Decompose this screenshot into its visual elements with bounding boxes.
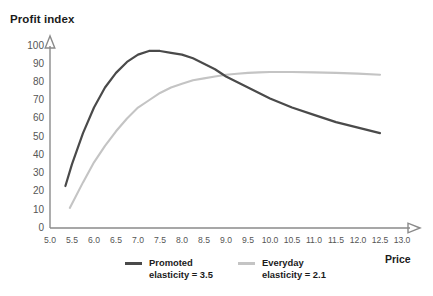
x-tick-label: 12.0	[350, 235, 367, 245]
legend-item-promoted: Promoted elasticity = 3.5	[125, 257, 213, 280]
legend-item-everyday: Everyday elasticity = 2.1	[238, 257, 326, 280]
y-tick-label: 10	[33, 204, 45, 215]
y-axis-group	[45, 36, 55, 228]
chart-plot-area: 100 90 80 70 60 50 40 30 20 10 0 5.0 5.5…	[0, 0, 433, 296]
series-lines	[65, 51, 380, 208]
x-tick-label: 6.0	[88, 235, 100, 245]
legend-label-everyday-line2: elasticity = 2.1	[262, 269, 326, 281]
legend-swatch-everyday-icon	[238, 262, 255, 265]
y-tick-label: 50	[33, 131, 45, 142]
x-tick-label: 7.5	[154, 235, 166, 245]
y-tick-label: 20	[33, 185, 45, 196]
x-tick-labels: 5.0 5.5 6.0 6.5 7.0 7.5 8.0 8.5 9.0 9.5 …	[44, 235, 411, 245]
x-tick-label: 12.5	[372, 235, 389, 245]
x-tick-label: 5.0	[44, 235, 56, 245]
y-tick-label: 60	[33, 112, 45, 123]
x-tick-label: 8.5	[198, 235, 210, 245]
x-tick-label: 5.5	[66, 235, 78, 245]
legend-label-promoted-line2: elasticity = 3.5	[149, 269, 213, 281]
x-tick-label: 11.0	[306, 235, 322, 245]
y-tick-label: 0	[38, 222, 44, 233]
x-tick-label: 9.0	[220, 235, 232, 245]
x-tick-label: 8.0	[176, 235, 188, 245]
line-series-promoted	[65, 51, 380, 186]
chart-legend: Promoted elasticity = 3.5 Everyday elast…	[0, 255, 433, 295]
x-tick-label: 10.5	[284, 235, 301, 245]
x-tick-label: 9.5	[242, 235, 254, 245]
x-axis-group	[50, 223, 420, 233]
y-tick-label: 70	[33, 94, 45, 105]
legend-label-everyday: Everyday elasticity = 2.1	[262, 257, 326, 280]
x-tick-label: 11.5	[328, 235, 344, 245]
legend-label-promoted: Promoted elasticity = 3.5	[149, 257, 213, 280]
x-tick-label: 13.0	[394, 235, 411, 245]
legend-swatch-promoted-icon	[125, 262, 142, 265]
y-tick-label: 80	[33, 76, 45, 87]
y-tick-label: 90	[33, 58, 45, 69]
legend-label-promoted-line1: Promoted	[149, 257, 213, 269]
legend-label-everyday-line1: Everyday	[262, 257, 326, 269]
x-tick-label: 7.0	[132, 235, 144, 245]
x-tick-label: 6.5	[110, 235, 122, 245]
chart-container: Profit index 100 90 80 70 60 50 40 30 20…	[0, 0, 433, 296]
line-series-everyday	[70, 72, 380, 208]
x-tick-label: 10.0	[262, 235, 279, 245]
y-tick-label: 40	[33, 149, 45, 160]
y-tick-labels: 100 90 80 70 60 50 40 30 20 10 0	[27, 40, 44, 233]
y-tick-label: 100	[27, 40, 44, 51]
y-tick-label: 30	[33, 167, 45, 178]
